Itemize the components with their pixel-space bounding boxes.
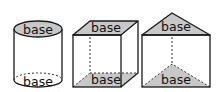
cylinder-top-label: base (23, 22, 53, 37)
triangular-prism-top-label: base (161, 19, 191, 34)
solids-diagram: base base base base base base (0, 0, 218, 92)
rectangular-prism: base base (73, 20, 138, 87)
cube-top-label: base (91, 20, 121, 35)
cylinder: base base (14, 21, 62, 89)
cylinder-bottom-label: base (23, 74, 53, 89)
triangular-prism: base base (142, 13, 210, 87)
triangular-prism-bottom-label: base (161, 72, 191, 87)
cube-bottom-label: base (91, 72, 121, 87)
